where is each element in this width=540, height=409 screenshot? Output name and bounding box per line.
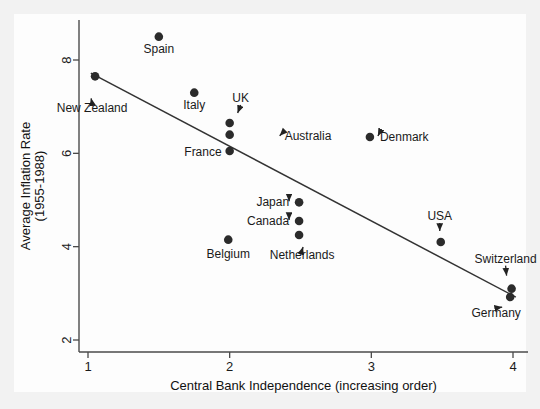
scatter-plot-figure: 24681234Central Bank Independence (incre… [0, 0, 540, 409]
point-label-australia: Australia [285, 129, 332, 143]
data-point-uk[interactable] [225, 119, 234, 128]
point-label-uk: UK [232, 91, 249, 105]
data-point-italy[interactable] [190, 88, 199, 97]
point-label-france: France [184, 145, 222, 159]
y-axis-title-line2: (1955-1988) [32, 151, 47, 222]
point-label-switzerland: Switzerland [475, 252, 537, 266]
point-label-italy: Italy [183, 98, 205, 112]
x-axis-title: Central Bank Independence (increasing or… [170, 378, 437, 393]
x-tick-label-4: 4 [509, 359, 516, 374]
data-point-denmark[interactable] [366, 133, 375, 142]
data-point-canada[interactable] [295, 217, 304, 226]
data-point-japan[interactable] [295, 198, 304, 207]
point-label-canada: Canada [247, 214, 289, 228]
y-tick-label-8: 8 [59, 56, 74, 63]
y-tick-label-2: 2 [59, 336, 74, 343]
y-tick-label-4: 4 [59, 243, 74, 250]
point-label-belgium: Belgium [207, 247, 250, 261]
point-label-new-zealand: New Zealand [57, 101, 128, 115]
y-axis-title-line1: Average Inflation Rate [18, 122, 33, 250]
data-point-new-zealand[interactable] [91, 72, 100, 81]
data-point-switzerland[interactable] [507, 284, 516, 293]
leader-line-uk [238, 105, 241, 113]
x-tick-label-3: 3 [368, 359, 375, 374]
data-point-germany[interactable] [506, 293, 515, 302]
leader-line-switzerland [506, 266, 507, 276]
point-label-japan: Japan [256, 195, 289, 209]
data-point-usa[interactable] [436, 238, 445, 247]
data-point-australia[interactable] [225, 130, 234, 139]
point-label-spain: Spain [143, 42, 174, 56]
data-point-belgium[interactable] [224, 235, 233, 244]
regression-fit-line [91, 73, 516, 297]
point-label-usa: USA [427, 209, 452, 223]
chart-canvas: 24681234Central Bank Independence (incre… [0, 0, 540, 409]
x-tick-label-2: 2 [226, 359, 233, 374]
data-point-spain[interactable] [155, 32, 164, 41]
data-point-netherlands[interactable] [295, 231, 304, 240]
data-point-france[interactable] [225, 147, 234, 156]
point-label-denmark: Denmark [380, 130, 430, 144]
x-tick-label-1: 1 [84, 359, 91, 374]
point-label-netherlands: Netherlands [270, 248, 335, 262]
point-label-germany: Germany [471, 306, 520, 320]
y-tick-label-6: 6 [59, 150, 74, 157]
